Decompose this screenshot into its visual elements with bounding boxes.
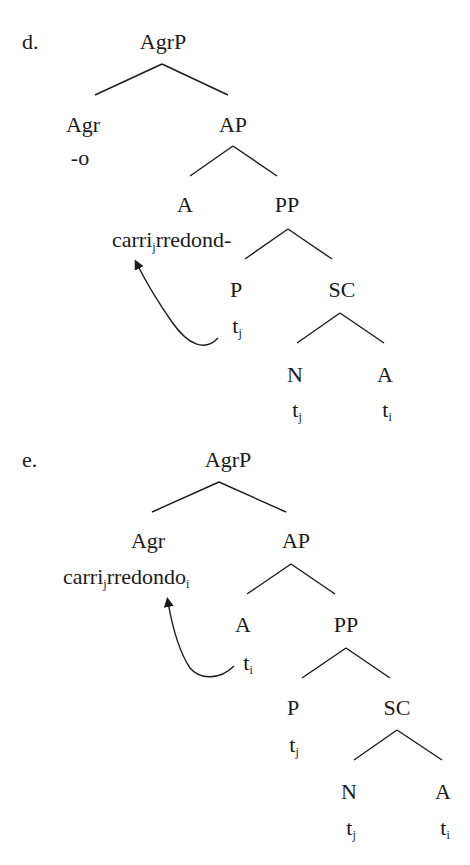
a-content-rest: rredond- — [156, 227, 232, 252]
edge-sc-a — [340, 313, 384, 343]
agr-content: carrijrredondoi — [63, 566, 189, 588]
edge-agrp-agr — [152, 482, 219, 512]
edge-sc-n — [297, 313, 340, 343]
edge-pp-sc — [288, 229, 332, 259]
index-i: i — [186, 577, 189, 591]
n-trace: tj — [346, 817, 355, 839]
node-sc-a: A — [435, 781, 451, 803]
node-a: A — [235, 614, 251, 636]
index-i: i — [388, 410, 391, 424]
node-sc: SC — [384, 697, 411, 719]
edge-agrp-ap — [219, 482, 286, 512]
index-j: j — [298, 410, 301, 424]
node-p: P — [230, 279, 242, 301]
sc-a-trace: ti — [440, 817, 449, 839]
node-pp: PP — [275, 194, 299, 216]
sc-a-trace: ti — [382, 399, 391, 421]
edge-ap-a — [247, 564, 291, 594]
edge-sc-a — [397, 730, 442, 760]
movement-arrow-e — [168, 602, 234, 677]
agr-content-base: carri — [63, 564, 103, 589]
edge-pp-p — [245, 229, 288, 259]
a-trace: ti — [243, 652, 252, 674]
node-sc-a: A — [377, 364, 393, 386]
p-trace: tj — [232, 315, 241, 337]
node-pp: PP — [334, 614, 358, 636]
edge-sc-n — [354, 730, 397, 760]
a-content-base: carri — [112, 227, 152, 252]
edge-pp-p — [302, 648, 346, 678]
node-agrp: AgrP — [205, 449, 251, 471]
index-j: j — [238, 326, 241, 340]
edge-pp-sc — [346, 648, 390, 678]
n-trace: tj — [292, 399, 301, 421]
p-trace: tj — [289, 734, 298, 756]
agr-content: -o — [71, 147, 89, 169]
node-agrp: AgrP — [140, 31, 186, 53]
edge-agrp-agr — [95, 64, 162, 95]
node-n: N — [287, 364, 303, 386]
index-j: j — [295, 745, 298, 759]
tree-d-edges — [95, 64, 384, 345]
movement-arrow-d — [137, 264, 218, 345]
edge-ap-a — [190, 146, 233, 176]
index-j: j — [352, 828, 355, 842]
node-agr: Agr — [131, 530, 165, 552]
edge-ap-pp — [291, 564, 335, 594]
edge-ap-pp — [233, 146, 277, 176]
example-label-d: d. — [22, 31, 39, 53]
node-sc: SC — [329, 279, 356, 301]
edge-agrp-ap — [162, 64, 228, 95]
agr-content-rest: rredondo — [107, 564, 186, 589]
a-content: carrijrredond- — [112, 229, 231, 251]
node-ap: AP — [219, 114, 247, 136]
index-i: i — [446, 828, 449, 842]
index-i: i — [249, 663, 252, 677]
node-agr: Agr — [66, 114, 100, 136]
node-p: P — [287, 697, 299, 719]
example-label-e: e. — [22, 449, 37, 471]
node-n: N — [341, 781, 357, 803]
node-a: A — [177, 194, 193, 216]
node-ap: AP — [282, 530, 310, 552]
